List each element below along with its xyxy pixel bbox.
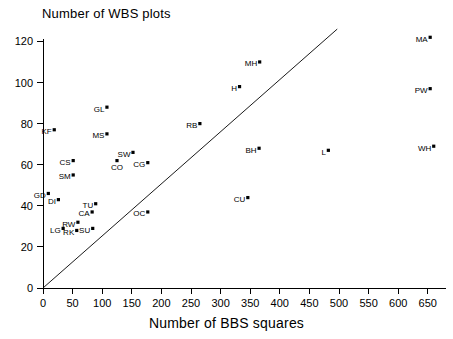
data-point-marker — [146, 210, 149, 213]
data-point: DI — [48, 197, 60, 206]
data-points-group: KFGLMSCSSMGDDICOSWCGTUCARWLGRKSUOCRBMHHB… — [34, 35, 435, 237]
data-point: OC — [133, 209, 149, 218]
x-axis-tick-label: 650 — [419, 297, 437, 309]
data-point: CS — [60, 158, 75, 167]
data-point-marker — [57, 198, 60, 201]
x-axis-tick-label: 150 — [123, 297, 141, 309]
data-point-label: H — [231, 84, 237, 93]
x-axis-tick-label: 200 — [152, 297, 170, 309]
data-point-marker — [432, 145, 435, 148]
y-axis-tick-label: 100 — [15, 77, 33, 89]
data-point: CG — [133, 160, 149, 169]
y-axis-tick-label: 20 — [21, 241, 33, 253]
x-axis-tick-label: 400 — [271, 297, 289, 309]
data-point: CU — [234, 195, 250, 204]
data-point-marker — [429, 36, 432, 39]
y-axis-tick-label: 120 — [15, 35, 33, 47]
x-axis-tick-label: 0 — [40, 297, 46, 309]
data-point-label: SW — [118, 150, 131, 159]
data-point: PW — [415, 86, 432, 95]
x-axis-tick-label: 250 — [182, 297, 200, 309]
data-point-marker — [91, 210, 94, 213]
data-point-marker — [91, 227, 94, 230]
x-axis-tick-label: 100 — [93, 297, 111, 309]
data-point-label: WH — [418, 144, 432, 153]
y-axis-tick-label: 0 — [27, 282, 33, 294]
data-point-label: CA — [79, 209, 91, 218]
data-point-marker — [47, 192, 50, 195]
data-point-label: RB — [186, 121, 197, 130]
reference-line-group — [43, 29, 337, 288]
data-point-label: GL — [94, 105, 105, 114]
data-point: WH — [418, 144, 435, 153]
data-point-label: MS — [92, 131, 104, 140]
data-point-marker — [146, 161, 149, 164]
data-point-label: L — [321, 148, 326, 157]
data-point-label: CO — [111, 163, 123, 172]
y-axis-tick-label: 60 — [21, 159, 33, 171]
identity-reference-line — [43, 29, 337, 288]
data-point: MH — [245, 59, 262, 68]
data-point: RK — [63, 228, 78, 237]
data-point: RB — [186, 121, 201, 130]
x-axis-tick-label: 300 — [211, 297, 229, 309]
data-point-label: SU — [79, 226, 90, 235]
data-point-label: CS — [60, 158, 71, 167]
data-point: L — [321, 148, 330, 157]
data-point-marker — [76, 221, 79, 224]
data-point-marker — [105, 106, 108, 109]
data-point: MA — [416, 35, 432, 44]
data-point-marker — [238, 85, 241, 88]
axes: 0204060801001200501001502002503003504004… — [15, 35, 446, 309]
x-axis-tick-label: 50 — [66, 297, 78, 309]
data-point: CA — [79, 209, 94, 218]
data-point: KF — [42, 127, 56, 136]
data-point-marker — [94, 202, 97, 205]
data-point-marker — [131, 151, 134, 154]
data-point-label: LG — [50, 226, 61, 235]
data-point-marker — [258, 60, 261, 63]
data-point-label: BH — [245, 146, 256, 155]
data-point-label: MH — [245, 59, 258, 68]
data-point-marker — [246, 196, 249, 199]
data-point-marker — [257, 147, 260, 150]
chart-canvas: 0204060801001200501001502002503003504004… — [0, 0, 453, 339]
data-point: GL — [94, 105, 109, 114]
data-point-label: MA — [416, 35, 429, 44]
data-point-label: SM — [59, 172, 71, 181]
data-point: CO — [111, 159, 123, 172]
y-axis-tick-label: 40 — [21, 200, 33, 212]
data-point-label: KF — [42, 127, 52, 136]
x-axis-tick-label: 450 — [300, 297, 318, 309]
data-point: SU — [79, 226, 94, 235]
data-point-label: PW — [415, 86, 428, 95]
x-axis-tick-label: 600 — [389, 297, 407, 309]
data-point-label: DI — [48, 197, 56, 206]
data-point-label: RK — [63, 228, 75, 237]
data-point-marker — [105, 132, 108, 135]
data-point-label: OC — [133, 209, 145, 218]
data-point-marker — [72, 159, 75, 162]
x-axis-tick-label: 550 — [359, 297, 377, 309]
data-point: SW — [118, 150, 135, 159]
scatter-plot-figure: Number of WBS plots 02040608010012005010… — [0, 0, 453, 339]
data-point: H — [231, 84, 241, 93]
x-axis-tick-label: 500 — [330, 297, 348, 309]
data-point-marker — [327, 149, 330, 152]
x-axis-label: Number of BBS squares — [0, 315, 453, 331]
data-point-label: CU — [234, 195, 246, 204]
data-point-marker — [53, 128, 56, 131]
data-point: MS — [92, 131, 108, 140]
data-point-marker — [75, 229, 78, 232]
data-point-label: GD — [34, 191, 46, 200]
y-axis-tick-label: 80 — [21, 118, 33, 130]
data-point-marker — [429, 87, 432, 90]
data-point-marker — [198, 122, 201, 125]
x-axis-tick-label: 350 — [241, 297, 259, 309]
data-point: SM — [59, 172, 75, 181]
data-point: BH — [245, 146, 260, 155]
data-point-marker — [72, 173, 75, 176]
data-point-label: CG — [133, 160, 145, 169]
